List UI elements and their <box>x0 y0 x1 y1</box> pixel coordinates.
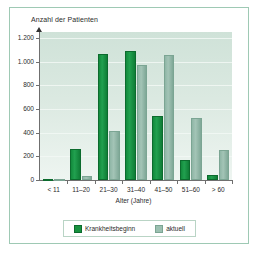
x-axis-line <box>39 180 233 181</box>
chart-legend: Krankheitsbeginn aktuell <box>63 220 196 237</box>
bar-aktuell-0 <box>54 179 65 181</box>
legend-label-1: aktuell <box>166 225 185 232</box>
y-tick <box>36 156 40 157</box>
y-tick-label: 600 <box>0 105 34 112</box>
bar-krankheitsbeginn-3 <box>125 51 136 180</box>
x-tick <box>95 181 96 184</box>
bar-krankheitsbeginn-1 <box>70 149 81 180</box>
bar-krankheitsbeginn-6 <box>207 175 218 180</box>
y-tick-label: 1.200 <box>0 34 34 41</box>
y-axis-arrow-icon <box>36 27 42 32</box>
legend-item-0[interactable]: Krankheitsbeginn <box>74 225 135 233</box>
x-tick <box>67 181 68 184</box>
y-tick <box>36 62 40 63</box>
bar-krankheitsbeginn-4 <box>152 116 163 180</box>
bar-krankheitsbeginn-2 <box>98 54 109 180</box>
x-axis-title: Alter (Jahre) <box>0 197 267 204</box>
y-tick-label: 800 <box>0 81 34 88</box>
bar-aktuell-6 <box>219 150 230 180</box>
y-tick-label: 200 <box>0 152 34 159</box>
bar-aktuell-1 <box>82 176 93 180</box>
y-tick <box>36 133 40 134</box>
y-axis-title: Anzahl der Patienten <box>31 16 98 23</box>
x-tick <box>150 181 151 184</box>
y-tick <box>36 180 40 181</box>
legend-swatch-krankheitsbeginn <box>74 225 82 233</box>
x-tick <box>122 181 123 184</box>
bar-aktuell-4 <box>164 55 175 180</box>
x-tick <box>177 181 178 184</box>
y-tick-label: 400 <box>0 129 34 136</box>
y-tick <box>36 85 40 86</box>
y-tick <box>36 109 40 110</box>
gridline <box>40 62 232 63</box>
gridline <box>40 38 232 39</box>
bar-aktuell-3 <box>137 65 148 180</box>
bar-krankheitsbeginn-5 <box>180 160 191 180</box>
legend-item-1[interactable]: aktuell <box>155 225 185 233</box>
y-tick-label: 0 <box>0 176 34 183</box>
y-tick-label: 1.000 <box>0 58 34 65</box>
x-tick <box>205 181 206 184</box>
bar-krankheitsbeginn-0 <box>43 179 54 181</box>
x-tick-label: > 60 <box>198 186 238 193</box>
bar-aktuell-2 <box>109 131 120 180</box>
chart-figure: Anzahl der Patienten 02004006008001.0001… <box>0 0 267 259</box>
legend-swatch-aktuell <box>155 225 163 233</box>
y-axis-line <box>39 30 40 181</box>
y-tick <box>36 38 40 39</box>
x-tick <box>232 181 233 184</box>
legend-label-0: Krankheitsbeginn <box>85 225 135 232</box>
bar-aktuell-5 <box>191 118 202 180</box>
